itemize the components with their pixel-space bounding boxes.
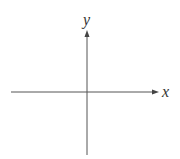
coordinate-axes-diagram: x y (0, 0, 180, 159)
x-axis (11, 90, 159, 95)
y-axis-arrow-icon (85, 30, 90, 37)
y-axis-label: y (81, 11, 91, 29)
x-axis-arrow-icon (152, 90, 159, 95)
x-axis-label: x (161, 83, 169, 100)
